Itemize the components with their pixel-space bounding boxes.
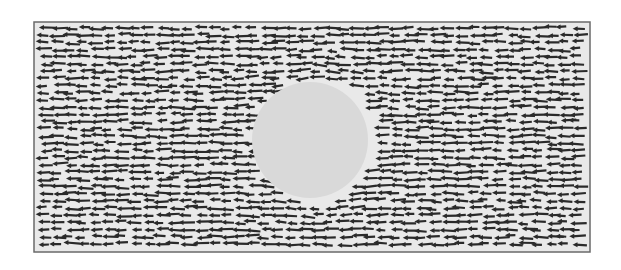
circular-obstacle — [252, 82, 368, 198]
quiver-plot-figure — [0, 0, 621, 270]
quiver-plot — [0, 0, 621, 270]
